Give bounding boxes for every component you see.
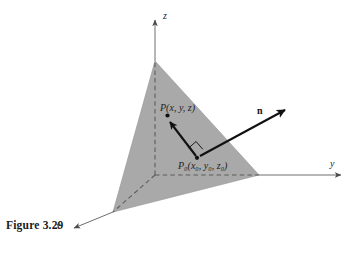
point-P0-label: P₀(x₀, y₀, z₀) xyxy=(178,161,227,171)
point-P-dot xyxy=(165,113,169,117)
point-P-label: P(x, y, z) xyxy=(160,103,195,113)
figure-caption: Figure 3.29 xyxy=(6,219,64,231)
figure-container: P(x, y, z) P₀(x₀, y₀, z₀) z y x n Figure… xyxy=(0,0,361,256)
z-axis-label: z xyxy=(163,11,167,21)
normal-vector-label: n xyxy=(257,106,263,116)
y-axis-label: y xyxy=(330,159,334,169)
plane-normal-diagram xyxy=(0,0,361,256)
x-axis-solid-segment xyxy=(74,212,113,228)
